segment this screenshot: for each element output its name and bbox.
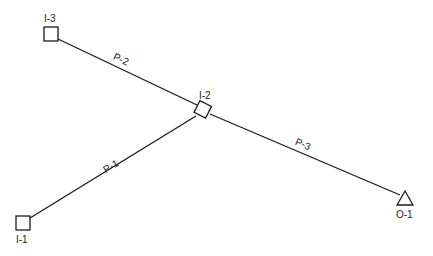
node-label-i2: I-2 xyxy=(199,90,211,101)
junction-square-icon xyxy=(44,27,58,41)
outfall-triangle-icon xyxy=(397,191,413,205)
pipe-label-p2: P-2 xyxy=(112,51,131,68)
node-label-i3: I-3 xyxy=(44,13,56,24)
network-diagram: P-2 P-1 P-3 I-3 I-2 I-1 O-1 xyxy=(0,0,433,256)
node-label-o1: O-1 xyxy=(396,209,413,220)
node-i1[interactable]: I-1 xyxy=(16,216,30,245)
node-i2[interactable]: I-2 xyxy=(194,90,211,118)
pipe-p3[interactable] xyxy=(210,114,400,195)
node-i3[interactable]: I-3 xyxy=(44,13,58,41)
junction-square-icon xyxy=(16,216,30,230)
pipe-label-p3: P-3 xyxy=(294,136,313,152)
junction-square-icon xyxy=(194,101,211,118)
pipe-p2[interactable] xyxy=(58,39,197,105)
node-o1[interactable]: O-1 xyxy=(396,191,413,220)
node-label-i1: I-1 xyxy=(16,234,28,245)
